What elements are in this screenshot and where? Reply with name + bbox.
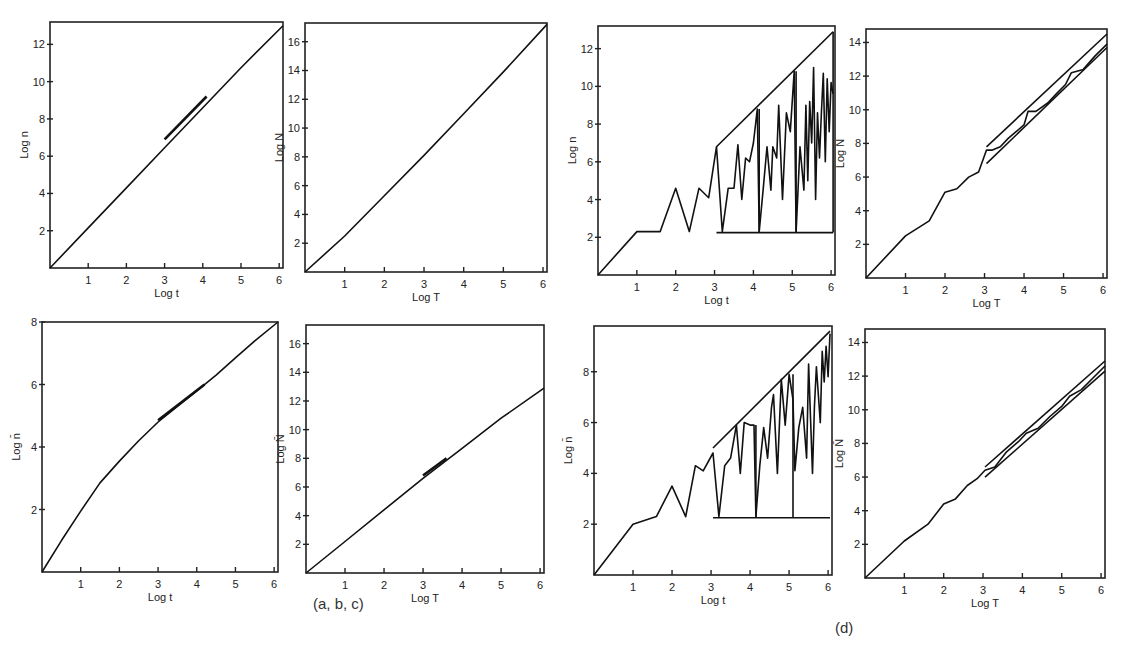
x-tick-label: 1 [902, 284, 908, 296]
y-tick-label: 6 [31, 379, 37, 391]
x-tick-label: 4 [194, 578, 200, 590]
series-thick [158, 385, 204, 421]
y-axis-label: Log n [566, 137, 578, 165]
y-tick-label: 4 [31, 441, 37, 453]
x-tick-label: 5 [238, 274, 244, 286]
y-tick-label: 14 [289, 366, 301, 378]
x-tick-label: 3 [162, 274, 168, 286]
chart-panel-p2: 123456246810121416Log TLog N [273, 23, 547, 303]
x-tick-label: 2 [381, 579, 387, 591]
x-tick-label: 3 [421, 278, 427, 290]
x-tick-label: 5 [1060, 284, 1066, 296]
y-tick-label: 10 [849, 104, 861, 116]
y-tick-label: 2 [31, 504, 37, 516]
x-tick-label: 4 [461, 278, 467, 290]
y-tick-label: 10 [33, 76, 45, 88]
x-tick-label: 3 [980, 584, 986, 596]
x-tick-label: 5 [786, 581, 792, 593]
y-tick-label: 8 [295, 452, 301, 464]
x-tick-label: 4 [459, 579, 465, 591]
x-tick-label: 1 [634, 281, 640, 293]
x-tick-label: 3 [981, 284, 987, 296]
y-tick-label: 4 [855, 205, 861, 217]
y-tick-label: 2 [295, 538, 301, 550]
series-lower-envelope [985, 371, 1105, 477]
x-tick-label: 1 [342, 278, 348, 290]
x-tick-label: 6 [825, 581, 831, 593]
x-tick-label: 2 [116, 578, 122, 590]
y-tick-label: 4 [587, 194, 593, 206]
series-main [305, 24, 547, 272]
x-axis-label: Log T [412, 291, 440, 303]
y-tick-label: 2 [294, 237, 300, 249]
x-tick-label: 5 [789, 281, 795, 293]
y-tick-label: 12 [289, 395, 301, 407]
y-tick-label: 4 [583, 467, 589, 479]
chart-panel-p6: 123456246810121416Log TLog N̄ [274, 325, 544, 604]
y-axis-label: Log N [834, 139, 846, 168]
x-tick-label: 6 [271, 578, 277, 590]
x-axis-label: Log T [973, 297, 1001, 309]
y-tick-label: 6 [583, 417, 589, 429]
y-tick-label: 2 [587, 231, 593, 243]
x-tick-label: 1 [78, 578, 84, 590]
series-main [866, 44, 1107, 278]
y-tick-label: 6 [855, 171, 861, 183]
x-axis-label: Log t [704, 294, 728, 306]
y-tick-label: 8 [854, 437, 860, 449]
series-upper-envelope [985, 361, 1105, 467]
y-tick-label: 8 [39, 113, 45, 125]
x-axis-label: Log t [148, 591, 172, 603]
x-axis-label: Log T [411, 592, 439, 604]
x-tick-label: 3 [711, 281, 717, 293]
chart-panel-p7: 1234562468Log tLog n̄ [562, 326, 832, 606]
x-tick-label: 6 [537, 579, 543, 591]
y-tick-label: 12 [849, 70, 861, 82]
x-axis-label: Log t [154, 287, 178, 299]
y-tick-label: 6 [587, 156, 593, 168]
y-tick-label: 2 [39, 225, 45, 237]
y-tick-label: 8 [587, 118, 593, 130]
x-tick-label: 5 [232, 578, 238, 590]
x-tick-label: 2 [381, 278, 387, 290]
series-main [50, 26, 283, 268]
x-tick-label: 6 [540, 278, 546, 290]
x-tick-label: 4 [750, 281, 756, 293]
y-axis-label: Log n̄ [10, 433, 22, 461]
y-tick-label: 12 [288, 93, 300, 105]
y-tick-label: 4 [294, 208, 300, 220]
y-axis-label: Log N [273, 133, 285, 162]
x-tick-label: 5 [1059, 584, 1065, 596]
y-tick-label: 10 [848, 404, 860, 416]
plot-frame [305, 23, 547, 272]
chart-panel-p4: 1234562468101214Log TLog N [834, 29, 1107, 309]
y-tick-label: 6 [39, 150, 45, 162]
x-tick-label: 3 [155, 578, 161, 590]
x-tick-label: 4 [1019, 584, 1025, 596]
x-tick-label: 1 [342, 579, 348, 591]
y-tick-label: 4 [854, 505, 860, 517]
x-axis-label: Log t [701, 594, 725, 606]
series-upper-envelope [987, 34, 1108, 147]
x-tick-label: 1 [85, 274, 91, 286]
series-main [306, 388, 544, 573]
y-tick-label: 12 [33, 38, 45, 50]
y-tick-label: 16 [289, 338, 301, 350]
y-tick-label: 12 [581, 43, 593, 55]
y-tick-label: 8 [31, 316, 37, 328]
x-axis-label: Log T [971, 597, 999, 609]
chart-panel-p1: 12345624681012Log tLog n [18, 22, 283, 299]
series-main [42, 322, 278, 572]
x-tick-label: 2 [941, 584, 947, 596]
y-tick-label: 4 [39, 187, 45, 199]
caption-abc: (a, b, c) [313, 595, 364, 612]
plot-frame [306, 325, 544, 573]
y-tick-label: 10 [288, 122, 300, 134]
y-axis-label: Log N̄ [274, 434, 286, 463]
series-upper-envelope [713, 331, 830, 448]
y-tick-label: 10 [289, 424, 301, 436]
caption-d: (d) [835, 619, 853, 636]
y-tick-label: 6 [295, 481, 301, 493]
x-tick-label: 4 [747, 581, 753, 593]
y-tick-label: 10 [581, 80, 593, 92]
